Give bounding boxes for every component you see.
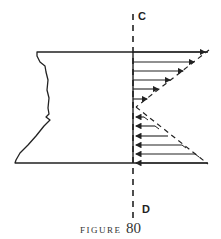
caption-number: 80 bbox=[126, 220, 141, 236]
lower-velocity-arrows bbox=[136, 117, 207, 163]
velocity-distribution-diagram bbox=[0, 0, 221, 239]
upper-velocity-arrows bbox=[133, 52, 205, 99]
figure-caption: FIGURE 80 bbox=[0, 220, 221, 237]
axis-label-c: C bbox=[138, 10, 146, 22]
caption-word: FIGURE bbox=[80, 225, 122, 235]
axis-label-d: D bbox=[142, 203, 150, 215]
lower-arrow-end-ticks bbox=[144, 117, 199, 157]
body-profile-outline bbox=[15, 52, 208, 163]
